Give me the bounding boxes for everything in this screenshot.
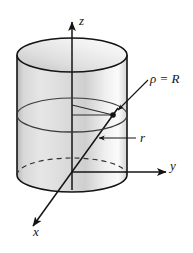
rho-equals-R-label: ρ = R xyxy=(149,71,180,86)
cylinder-diagram-svg: ρ = R r z y x xyxy=(0,0,193,253)
z-axis-label: z xyxy=(78,13,84,28)
radius-label: r xyxy=(140,130,146,145)
figure-container: ρ = R r z y x xyxy=(0,0,193,253)
surface-point-marker xyxy=(110,112,116,118)
x-axis-label: x xyxy=(32,224,39,239)
y-axis-label: y xyxy=(168,158,176,173)
